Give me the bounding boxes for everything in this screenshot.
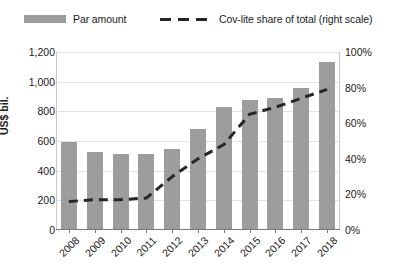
legend-label-par-amount: Par amount — [73, 13, 126, 25]
chart-legend: Par amount Cov-lite share of total (righ… — [0, 8, 400, 30]
x-axis-tick-label-2011: 2011 — [129, 234, 159, 264]
y-axis-right-tick-label: 40% — [345, 153, 393, 165]
x-axis-tickmark — [121, 230, 122, 233]
x-axis-tickmark — [250, 230, 251, 233]
x-axis-tick-label-2012: 2012 — [155, 234, 185, 264]
y-axis-left-tick-label: 1,000 — [9, 76, 55, 88]
y-axis-right-tick-label: 80% — [345, 82, 393, 94]
x-axis-tickmark — [327, 230, 328, 233]
x-axis-tickmark — [146, 230, 147, 233]
cov-lite-polyline — [69, 89, 327, 201]
x-axis-tickmark — [224, 230, 225, 233]
x-axis-tick-label-2017: 2017 — [284, 234, 314, 264]
y-axis-left-tick-label: 800 — [9, 105, 55, 117]
y-axis-left-tick-label: 1,200 — [9, 46, 55, 58]
x-axis-tickmark — [198, 230, 199, 233]
y-axis-right-tick-label: 20% — [345, 188, 393, 200]
y-axis-left-tick-label: 600 — [9, 135, 55, 147]
x-axis-tickmark — [301, 230, 302, 233]
plot-area — [56, 52, 340, 230]
x-axis-tickmark — [275, 230, 276, 233]
x-axis-tick-label-2018: 2018 — [310, 234, 340, 264]
y-axis-right-tick-label: 100% — [345, 46, 393, 58]
axis-bottom-line — [56, 229, 340, 230]
x-axis-tickmark — [95, 230, 96, 233]
y-axis-left-tick-label: 200 — [9, 194, 55, 206]
y-axis-right-tick-label: 60% — [345, 117, 393, 129]
y-axis-left-tick-label: 400 — [9, 165, 55, 177]
x-axis-tickmark — [172, 230, 173, 233]
line-series-cov-lite-share — [56, 52, 340, 230]
x-axis-tick-label-2009: 2009 — [78, 234, 108, 264]
cov-lite-line-svg — [56, 52, 340, 230]
x-axis-tick-label-2013: 2013 — [181, 234, 211, 264]
x-axis-tick-label-2014: 2014 — [207, 234, 237, 264]
x-axis-tick-label-2016: 2016 — [258, 234, 288, 264]
legend-item-par-amount: Par amount — [24, 8, 126, 30]
y-axis-right-tick-label: 0% — [345, 224, 393, 236]
y-axis-left-tick-label: 0 — [9, 224, 55, 236]
x-axis-tick-label-2010: 2010 — [103, 234, 133, 264]
legend-label-cov-lite-share: Cov-lite share of total (right scale) — [219, 13, 372, 25]
legend-item-cov-lite-share: Cov-lite share of total (right scale) — [160, 8, 372, 30]
x-axis-tickmark — [69, 230, 70, 233]
bar-swatch-icon — [24, 15, 66, 23]
chart-container: Par amount Cov-lite share of total (righ… — [0, 0, 400, 270]
x-axis-tick-label-2015: 2015 — [232, 234, 262, 264]
x-axis-tick-label-2008: 2008 — [52, 234, 82, 264]
dashed-line-swatch-icon — [160, 14, 212, 25]
